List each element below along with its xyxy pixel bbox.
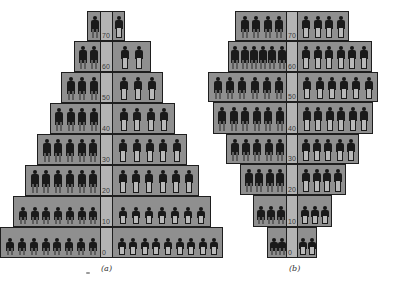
age-tick-label: 0 <box>288 249 292 257</box>
male-figure-icon <box>266 169 273 192</box>
female-figure-icon <box>120 108 127 131</box>
female-figure-icon <box>325 16 332 38</box>
female-half <box>113 166 198 195</box>
male-figure-icon <box>30 238 37 255</box>
male-figure-icon <box>43 139 50 162</box>
male-figure-icon <box>90 77 97 100</box>
male-figure-icon <box>53 238 60 255</box>
female-half <box>298 73 377 101</box>
male-half <box>236 12 287 40</box>
male-figure-icon <box>253 139 260 161</box>
male-half <box>1 228 101 257</box>
male-figure-icon <box>42 170 49 193</box>
female-figure-icon <box>185 170 192 193</box>
age-axis-strip: 20 <box>100 166 113 195</box>
female-figure-icon <box>197 207 204 224</box>
male-half <box>26 166 101 195</box>
female-figure-icon <box>176 238 183 255</box>
male-figure-icon <box>252 16 259 38</box>
age-tick-label: 50 <box>288 93 296 101</box>
female-figure-icon <box>187 238 194 255</box>
age-row-40: 40 <box>213 102 373 134</box>
male-figure-icon <box>253 107 260 131</box>
male-figure-icon <box>276 107 283 131</box>
age-row-20: 20 <box>25 165 199 196</box>
age-tick-label: 70 <box>288 32 296 40</box>
age-axis-strip: 20 <box>286 165 298 194</box>
female-half <box>113 228 222 257</box>
female-figure-icon <box>119 139 126 162</box>
female-figure-icon <box>336 139 343 161</box>
male-figure-icon <box>214 77 221 99</box>
age-row-0: 0 <box>0 227 223 258</box>
age-tick-label: 60 <box>102 63 110 71</box>
female-figure-icon <box>133 139 140 162</box>
male-half <box>62 73 101 102</box>
female-figure-icon <box>148 77 155 100</box>
age-axis-strip: 40 <box>100 104 113 133</box>
female-half <box>113 104 174 133</box>
age-axis-strip: 0 <box>286 228 298 257</box>
male-figure-icon <box>245 169 252 192</box>
female-figure-icon <box>302 139 309 161</box>
female-half <box>113 12 124 40</box>
female-figure-icon <box>129 238 136 255</box>
male-half <box>75 42 101 71</box>
male-figure-icon <box>255 169 262 192</box>
female-figure-icon <box>133 108 140 131</box>
female-half <box>298 165 345 194</box>
male-figure-icon <box>55 108 62 131</box>
age-row-40: 40 <box>50 103 175 134</box>
female-figure-icon <box>328 77 335 99</box>
male-figure-icon <box>218 107 225 131</box>
female-figure-icon <box>199 238 206 255</box>
female-figure-icon <box>323 169 330 192</box>
male-figure-icon <box>90 46 97 69</box>
female-figure-icon <box>337 46 344 69</box>
female-figure-icon <box>365 77 372 99</box>
male-figure-icon <box>242 139 249 161</box>
male-figure-icon <box>275 77 282 99</box>
female-figure-icon <box>316 77 323 99</box>
female-half <box>298 228 316 257</box>
male-figure-icon <box>89 207 96 224</box>
male-figure-icon <box>250 46 257 69</box>
female-figure-icon <box>337 107 344 131</box>
male-figure-icon <box>67 108 74 131</box>
age-tick-label: 10 <box>288 218 296 226</box>
male-figure-icon <box>268 46 275 69</box>
male-figure-icon <box>278 46 285 69</box>
female-figure-icon <box>159 139 166 162</box>
age-axis-strip: 10 <box>100 197 113 226</box>
female-figure-icon <box>145 207 152 224</box>
female-half <box>298 12 348 40</box>
caption-b: (b) <box>289 264 300 273</box>
female-figure-icon <box>132 207 139 224</box>
age-tick-label: 30 <box>288 155 296 163</box>
female-figure-icon <box>337 16 344 38</box>
female-half <box>113 42 150 71</box>
female-figure-icon <box>325 46 332 69</box>
female-figure-icon <box>302 46 309 69</box>
male-half <box>241 165 287 194</box>
male-half <box>14 197 101 226</box>
age-tick-label: 30 <box>102 156 110 164</box>
male-figure-icon <box>264 16 271 38</box>
female-half <box>298 196 331 226</box>
age-row-10: 10 <box>13 196 211 227</box>
female-figure-icon <box>314 16 321 38</box>
male-figure-icon <box>66 139 73 162</box>
male-figure-icon <box>270 238 277 255</box>
age-tick-label: 20 <box>102 187 110 195</box>
female-figure-icon <box>118 238 125 255</box>
female-figure-icon <box>184 207 191 224</box>
female-figure-icon <box>302 16 309 38</box>
male-figure-icon <box>91 16 98 38</box>
male-figure-icon <box>277 206 284 224</box>
female-figure-icon <box>321 206 328 224</box>
age-tick-label: 20 <box>288 186 296 194</box>
female-figure-icon <box>301 206 308 224</box>
female-figure-icon <box>334 169 341 192</box>
age-axis-strip: 0 <box>100 228 113 257</box>
age-tick-label: 10 <box>102 218 110 226</box>
